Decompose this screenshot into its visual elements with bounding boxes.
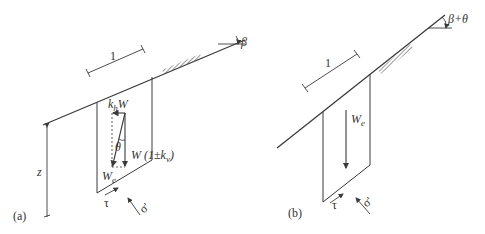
shear-label: τ xyxy=(332,199,337,211)
resultant-force-label: We xyxy=(102,170,116,185)
ground-hatching xyxy=(378,44,413,74)
slope-surface-line xyxy=(277,15,445,148)
beta-theta-angle-arc xyxy=(442,17,446,28)
length-label: 1 xyxy=(110,50,116,62)
vertical-force-label: W (1±kv) xyxy=(131,149,174,164)
beta-plus-theta-label: β+θ xyxy=(448,13,468,25)
depth-label: z xyxy=(37,166,42,178)
theta-label: θ xyxy=(115,141,121,153)
panel-a xyxy=(43,36,245,217)
panel-b-caption: (b) xyxy=(288,207,302,219)
resultant-force-label: We xyxy=(351,113,365,128)
beta-label: β xyxy=(241,36,247,48)
length-label: 1 xyxy=(325,57,331,69)
horizontal-force-label: khW xyxy=(108,98,128,113)
ground-hatching xyxy=(162,54,202,74)
shear-arrow xyxy=(105,188,118,195)
slope-surface-line xyxy=(43,40,245,125)
panel-a-caption: (a) xyxy=(13,210,26,222)
shear-label: τ xyxy=(104,197,109,209)
length-dimension-line xyxy=(305,54,357,88)
